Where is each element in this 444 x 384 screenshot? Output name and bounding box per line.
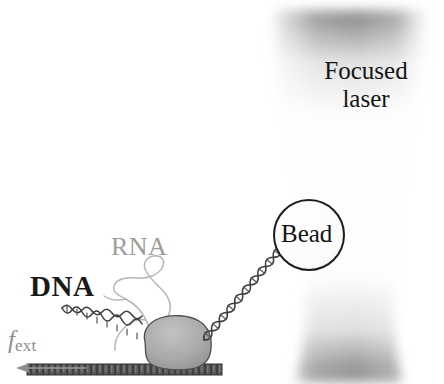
rna-label: RNA	[111, 234, 167, 260]
bead-label: Bead	[281, 221, 332, 246]
dna-tether-helix	[201, 246, 284, 343]
upstream-dna-helix	[62, 305, 142, 339]
optical-trap-diagram: DNA RNA Bead Focused laser fext	[0, 0, 444, 384]
laser-label-line1: Focused	[324, 57, 407, 84]
focused-laser-label: Focused laser	[296, 57, 436, 113]
laser-label-line2: laser	[342, 85, 389, 112]
force-subscript: ext	[15, 336, 37, 355]
force-symbol: f	[8, 326, 15, 353]
rna-polymerase-blob	[144, 316, 211, 370]
dna-label: DNA	[30, 272, 94, 301]
external-force-label: fext	[8, 327, 37, 354]
